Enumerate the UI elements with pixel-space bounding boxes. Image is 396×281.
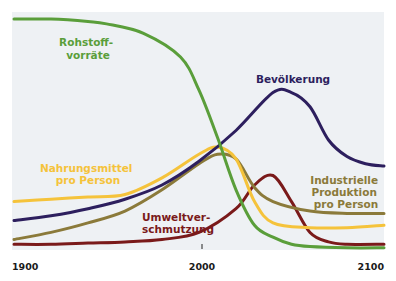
label-umweltverschmutzung: Umweltver- schmutzung [142, 211, 214, 235]
label-line: Produktion [311, 186, 376, 198]
label-industrielle-produktion: Industrielle Produktion pro Person [310, 174, 382, 210]
label-line: pro Person [314, 198, 379, 210]
label-line: vorräte [66, 49, 110, 61]
label-line: Nahrungsmittel [40, 162, 133, 174]
label-bevoelkerung: Bevölkerung [256, 73, 330, 85]
label-line: Rohstoff- [59, 36, 113, 48]
x-tick-label-2000: 2000 [189, 261, 216, 272]
label-line: Industrielle [310, 174, 378, 186]
label-rohstoffvorraete: Rohstoff- vorräte [59, 36, 117, 61]
label-line: Umweltver- [142, 211, 210, 223]
x-axis-ticks: 1900 2000 2100 [12, 261, 384, 272]
chart: 1900 2000 2100 Rohstoff- vorräte Bevölke… [0, 0, 396, 281]
label-line: schmutzung [142, 223, 214, 235]
x-tick-label-1900: 1900 [12, 261, 39, 272]
label-line: Bevölkerung [256, 73, 330, 85]
x-tick-label-2100: 2100 [358, 261, 385, 272]
label-line: pro Person [56, 174, 121, 186]
